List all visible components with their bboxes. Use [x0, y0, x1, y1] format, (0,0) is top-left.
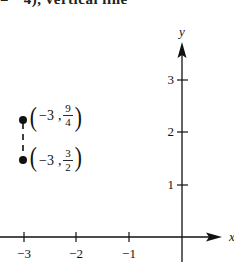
point-lower-denominator: 2: [65, 161, 71, 173]
point-lower-x: −3: [39, 153, 54, 168]
y-tick-label: 2: [168, 124, 175, 139]
x-axis-label: x: [228, 229, 234, 244]
close-paren: ): [75, 143, 82, 171]
close-paren: ): [75, 104, 82, 132]
point-lower-numerator: 3: [65, 147, 71, 159]
point-lower-label: ( −3 , 3 2 ): [30, 143, 82, 173]
x-tick-label: −3: [17, 246, 31, 261]
point-upper-denominator: 4: [65, 116, 71, 128]
point-upper: [19, 116, 27, 124]
y-tick-label: 1: [168, 177, 175, 192]
x-tick-label: −2: [69, 246, 83, 261]
point-upper-label: ( −3 , 9 4 ): [30, 102, 82, 132]
point-lower: [19, 156, 27, 164]
open-paren: (: [30, 143, 37, 171]
comma: ,: [58, 108, 62, 123]
y-axis-label: y: [177, 24, 185, 39]
coordinate-plane: −3 −2 −1 1 2 3 y x ( −3 , 9 4 ) ( −3 , 3…: [0, 0, 234, 269]
y-tick-label: 3: [168, 72, 175, 87]
point-upper-x: −3: [39, 108, 54, 123]
comma: ,: [58, 153, 62, 168]
open-paren: (: [30, 104, 37, 132]
x-tick-label: −1: [122, 246, 136, 261]
point-upper-numerator: 9: [65, 102, 71, 114]
